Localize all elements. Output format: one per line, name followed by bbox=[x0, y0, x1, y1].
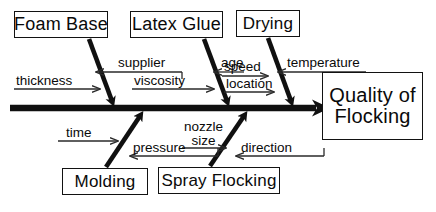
factor-label-nozzle-line2: size bbox=[184, 134, 223, 148]
factor-label-viscosity: viscosity bbox=[134, 74, 185, 88]
factor-label-thickness: thickness bbox=[16, 74, 72, 88]
factor-label-location: location bbox=[226, 77, 273, 91]
factor-label-time: time bbox=[66, 126, 92, 140]
category-label-foam-base: Foam Base bbox=[14, 15, 108, 34]
bone-foam-base bbox=[89, 39, 112, 101]
factor-label-direction: direction bbox=[241, 141, 292, 155]
factor-label-speed: speed bbox=[224, 60, 261, 74]
category-label-latex-glue: Latex Glue bbox=[132, 15, 221, 34]
category-label-spray-flocking: Spray Flocking bbox=[161, 172, 276, 190]
category-box-drying[interactable]: Drying bbox=[236, 10, 300, 37]
factor-label-nozzle-line1: nozzle bbox=[184, 120, 223, 134]
category-box-spray-flocking[interactable]: Spray Flocking bbox=[158, 167, 280, 194]
spine-group bbox=[10, 100, 330, 117]
factor-label-nozzle-size: nozzle size bbox=[184, 120, 223, 148]
fishbone-diagram: Foam Base Latex Glue Drying Molding Spra… bbox=[0, 0, 436, 212]
category-box-latex-glue[interactable]: Latex Glue bbox=[130, 11, 223, 38]
factor-label-temperature: temperature bbox=[287, 56, 360, 70]
effect-box-quality-of-flocking[interactable]: Quality of Flocking bbox=[322, 72, 423, 140]
category-box-foam-base[interactable]: Foam Base bbox=[14, 11, 108, 38]
factor-label-supplier: supplier bbox=[118, 56, 165, 70]
factor-label-pressure: pressure bbox=[133, 141, 186, 155]
category-label-molding: Molding bbox=[75, 173, 136, 191]
category-box-molding[interactable]: Molding bbox=[62, 168, 148, 195]
effect-label-line1: Quality of bbox=[329, 85, 415, 106]
effect-label-line2: Flocking bbox=[334, 106, 410, 127]
category-label-drying: Drying bbox=[243, 15, 293, 33]
